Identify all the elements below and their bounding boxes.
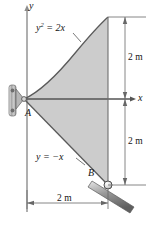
y-axis-label: y [29, 1, 33, 11]
dimension-label-upper: 2 m [128, 53, 143, 63]
dimension-label-horizontal: 2 m [57, 194, 72, 204]
line-equation: y = −x [36, 152, 63, 162]
dimension-label-lower: 2 m [128, 137, 143, 147]
x-axis-label: x [138, 93, 142, 103]
leader-parabola [73, 33, 81, 42]
parabola-equation: y2 = 2x [36, 22, 65, 33]
pin-support-a [9, 85, 26, 116]
point-label-a: A [25, 108, 31, 118]
statics-figure [0, 0, 153, 229]
roller-support-b [88, 181, 134, 213]
point-label-b: B [88, 168, 94, 178]
